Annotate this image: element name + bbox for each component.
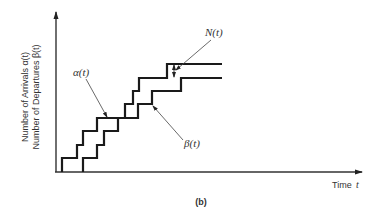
n-leader-line: [176, 40, 211, 70]
beta-departures-curve: [83, 78, 222, 172]
alpha-label: α(t): [73, 66, 89, 79]
figure-caption: (b): [195, 197, 207, 207]
y-axis-label-departures: Number of Departures β(t): [31, 44, 41, 149]
alpha-leader-line: [86, 79, 107, 117]
x-axis-label: Time: [332, 180, 352, 190]
alpha-arrivals-curve: [62, 64, 222, 172]
x-axis-var: t: [356, 179, 359, 190]
y-axis-label-arrivals: Number of Arrivals α(t): [20, 52, 30, 142]
beta-label: β(t): [183, 137, 200, 150]
n-label: N(t): [204, 26, 223, 39]
beta-leader-line: [153, 106, 183, 140]
queue-diagram: α(t) N(t) β(t) Number of Arrivals α(t) N…: [0, 0, 383, 216]
